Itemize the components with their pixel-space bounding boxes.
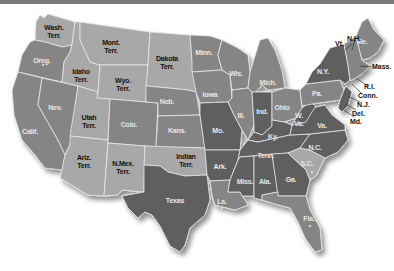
label-utah-terr: Utah Terr. <box>82 114 97 130</box>
label-va: Va. <box>317 122 327 130</box>
label-wis: Wis. <box>229 70 243 78</box>
label-minn: Minn. <box>195 49 212 57</box>
label-ark: Ark. <box>214 163 227 171</box>
label-nmex-terr: N.Mex. Terr. <box>112 160 133 176</box>
label-neb: Neb. <box>160 98 174 106</box>
label-mich: Mich. <box>260 79 277 87</box>
label-miss: Miss. <box>237 178 254 186</box>
label-fla: Fla. <box>303 215 314 223</box>
label-ga: Ga. <box>286 176 297 184</box>
label-texas: Texas <box>166 197 184 205</box>
label-ky: Ky. <box>268 133 278 141</box>
label-dakota-terr: Dakota Terr. <box>156 55 178 71</box>
label-tenn: Tenn. <box>257 152 274 160</box>
label-nev: Nev. <box>48 104 61 112</box>
callout-mass: Mass. <box>372 63 391 71</box>
region-ny <box>306 44 350 84</box>
callout-ri: R.I. <box>364 83 375 91</box>
label-la: La. <box>217 198 227 206</box>
callout-del: Del. <box>352 110 365 118</box>
label-sc: S.C. <box>301 160 314 168</box>
label-iowa: Iowa <box>203 91 218 99</box>
label-oreg: Oreg. <box>33 57 50 65</box>
label-indian-terr: Indian Terr. <box>176 153 195 169</box>
label-wyo-terr: Wyo. Terr. <box>115 77 131 93</box>
label-ill: Ill. <box>238 112 245 120</box>
label-colo: Colo. <box>121 121 138 129</box>
label-mo: Mo. <box>212 127 223 135</box>
label-ind: Ind. <box>256 108 268 116</box>
label-nc: N.C. <box>308 144 321 152</box>
callout-md: Md. <box>350 118 362 126</box>
callout-nh: N.H. <box>347 35 361 43</box>
label-kans: Kans. <box>168 127 186 135</box>
label-calif: Calif. <box>22 128 38 136</box>
label-wva: W. Va. <box>294 112 304 128</box>
label-ala: Ala. <box>259 178 271 186</box>
label-pa: Pa. <box>312 90 322 98</box>
label-ohio: Ohio <box>274 104 289 112</box>
label-wash-terr: Wash. Terr. <box>44 24 63 40</box>
label-ariz-terr: Ariz. Terr. <box>77 154 91 170</box>
callout-vt: Vt. <box>335 40 344 48</box>
label-ny: N.Y. <box>317 68 329 76</box>
callout-nj: N.J. <box>357 101 370 109</box>
label-mont-terr: Mont. Terr. <box>102 39 120 55</box>
label-idaho-terr: Idaho Terr. <box>72 68 90 84</box>
callout-conn: Conn. <box>358 92 378 100</box>
